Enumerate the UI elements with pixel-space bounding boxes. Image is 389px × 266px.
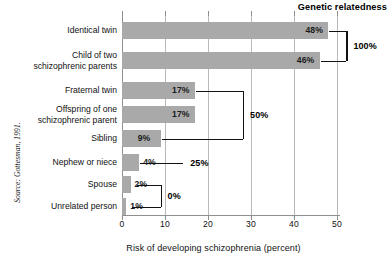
gridline-40 bbox=[294, 16, 295, 215]
category-label-line: Unrelated person bbox=[0, 201, 117, 212]
bracket-stem bbox=[243, 91, 244, 139]
x-tick-label-50: 50 bbox=[325, 219, 349, 229]
category-label: Fraternal twin bbox=[0, 85, 117, 96]
category-label: Identical twin bbox=[0, 25, 117, 36]
chart-root: Source: Gottesman, 1991. Genetic related… bbox=[0, 0, 389, 266]
category-label: Offspring of oneschizophrenic parent bbox=[0, 104, 117, 125]
category-label: Child of twoschizophrenic parents bbox=[0, 50, 117, 71]
bar bbox=[122, 22, 328, 39]
category-label-line: Spouse bbox=[0, 179, 117, 190]
relatedness-value-label: 25% bbox=[190, 158, 208, 168]
bracket-stem bbox=[346, 31, 347, 61]
bracket-arm bbox=[196, 91, 243, 92]
x-tick-label-30: 30 bbox=[239, 219, 263, 229]
category-label: Spouse bbox=[0, 179, 117, 190]
relatedness-value-label: 0% bbox=[168, 191, 181, 201]
bar-value-label: 17% bbox=[172, 109, 190, 119]
plot-area: 48%46%17%17%9%4%2%1% 100%50%25%0% bbox=[122, 16, 337, 215]
category-label: Nephew or niece bbox=[0, 157, 117, 168]
category-label-line: Sibling bbox=[0, 133, 117, 144]
top-tick-30 bbox=[251, 11, 252, 16]
bracket-arm bbox=[162, 139, 243, 140]
bar bbox=[122, 176, 131, 193]
category-label-line: schizophrenic parents bbox=[0, 61, 117, 72]
top-tick-40 bbox=[294, 11, 295, 16]
relatedness-value-label: 50% bbox=[250, 110, 268, 120]
bracket-arm bbox=[137, 185, 161, 186]
x-tick-label-0: 0 bbox=[110, 219, 134, 229]
category-label-line: Nephew or niece bbox=[0, 157, 117, 168]
bracket-stem bbox=[161, 185, 162, 207]
x-axis-line bbox=[122, 215, 340, 216]
category-label-line: Offspring of one bbox=[0, 104, 117, 115]
bracket-arm bbox=[140, 163, 183, 164]
bracket-arm bbox=[329, 31, 346, 32]
bar-value-label: 46% bbox=[297, 55, 315, 65]
category-label: Unrelated person bbox=[0, 201, 117, 212]
gridline-50 bbox=[337, 16, 338, 215]
x-tick-label-40: 40 bbox=[282, 219, 306, 229]
bar-value-label: 17% bbox=[172, 85, 190, 95]
category-label-line: Identical twin bbox=[0, 25, 117, 36]
bar-value-label: 48% bbox=[305, 25, 323, 35]
bar bbox=[122, 52, 320, 69]
relatedness-value-label: 100% bbox=[353, 41, 376, 51]
bar bbox=[122, 154, 139, 171]
gridline-20 bbox=[208, 16, 209, 215]
x-tick-label-20: 20 bbox=[196, 219, 220, 229]
category-label-line: Fraternal twin bbox=[0, 85, 117, 96]
category-label-line: schizophrenic parent bbox=[0, 115, 117, 126]
top-tick-0 bbox=[122, 11, 123, 16]
x-tick-label-10: 10 bbox=[153, 219, 177, 229]
category-label-line: Child of two bbox=[0, 50, 117, 61]
bar bbox=[122, 198, 126, 215]
top-tick-10 bbox=[165, 11, 166, 16]
chart-header-title: Genetic relatedness bbox=[298, 2, 387, 12]
bracket-arm bbox=[321, 61, 347, 62]
category-label: Sibling bbox=[0, 133, 117, 144]
bar-value-label: 9% bbox=[138, 133, 151, 143]
x-axis-title: Risk of developing schizophrenia (percen… bbox=[0, 243, 389, 253]
bracket-arm bbox=[132, 207, 160, 208]
top-tick-50 bbox=[337, 11, 338, 16]
top-tick-20 bbox=[208, 11, 209, 16]
